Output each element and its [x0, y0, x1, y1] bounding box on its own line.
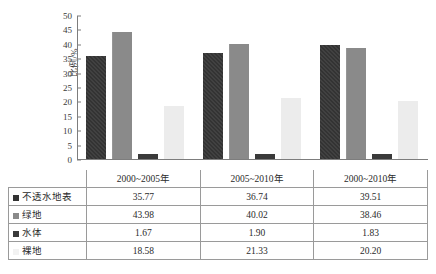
table-column-header: 2000~2010年: [314, 170, 428, 188]
table-cell-value: 1.83: [314, 224, 428, 242]
legend-label: 不透水地表: [22, 192, 72, 202]
table-row: 裸地18.5821.3320.20: [9, 242, 428, 260]
legend-label: 水体: [22, 228, 42, 238]
bar-water: [138, 154, 158, 159]
bar-impervious: [320, 45, 340, 159]
table-row: 不透水地表35.7736.7439.51: [9, 188, 428, 206]
y-tick-label: 5: [52, 141, 72, 150]
y-tick-label: 40: [52, 40, 72, 49]
table-cell-value: 38.46: [314, 206, 428, 224]
table-cell-value: 40.02: [200, 206, 314, 224]
table-cell-value: 36.74: [200, 188, 314, 206]
y-tick-label: 45: [52, 26, 72, 35]
table-row: 绿地43.9840.0238.46: [9, 206, 428, 224]
bar-bare: [281, 98, 301, 159]
legend-swatch-icon: [13, 231, 19, 237]
legend-label: 裸地: [22, 246, 42, 256]
table-header-row: 2000~2005年2005~2010年2000~2010年: [9, 170, 428, 188]
bar-chart: 比例/% 05101520253035404550: [0, 0, 436, 172]
bar-bare: [164, 106, 184, 160]
y-tick-label: 20: [52, 98, 72, 107]
table-cell-value: 1.90: [200, 224, 314, 242]
legend-swatch-icon: [13, 195, 19, 201]
bar-green: [112, 32, 132, 159]
table-cell-value: 39.51: [314, 188, 428, 206]
y-tick-label: 30: [52, 69, 72, 78]
table-row-label: 裸地: [9, 242, 87, 260]
table-cell-value: 35.77: [87, 188, 201, 206]
bar-green: [346, 48, 366, 159]
table-corner-cell: [9, 170, 87, 188]
bar-group: [78, 16, 195, 159]
y-tick-label: 25: [52, 84, 72, 93]
legend-swatch-icon: [13, 249, 19, 255]
table-row-label: 水体: [9, 224, 87, 242]
y-tick-label: 50: [52, 12, 72, 21]
table-row-label: 不透水地表: [9, 188, 87, 206]
table-row-label: 绿地: [9, 206, 87, 224]
bar-group: [195, 16, 312, 159]
bar-water: [255, 154, 275, 159]
table-row: 水体1.671.901.83: [9, 224, 428, 242]
bar-impervious: [203, 53, 223, 159]
table-column-header: 2005~2010年: [200, 170, 314, 188]
y-tick-label: 0: [52, 156, 72, 165]
bar-green: [229, 44, 249, 159]
legend-swatch-icon: [13, 213, 19, 219]
data-table: 2000~2005年2005~2010年2000~2010年不透水地表35.77…: [8, 170, 428, 260]
y-tick-label: 10: [52, 127, 72, 136]
figure-root: 比例/% 05101520253035404550 2000~2005年2005…: [0, 0, 436, 274]
table-body: 2000~2005年2005~2010年2000~2010年不透水地表35.77…: [9, 170, 428, 260]
bar-bare: [398, 101, 418, 159]
table-cell-value: 43.98: [87, 206, 201, 224]
table-cell-value: 20.20: [314, 242, 428, 260]
bar-impervious: [86, 56, 106, 159]
bar-water: [372, 154, 392, 159]
table-cell-value: 21.33: [200, 242, 314, 260]
bar-group: [312, 16, 429, 159]
plot-bars-container: [78, 16, 428, 159]
y-tick-label: 15: [52, 112, 72, 121]
plot-area: [77, 16, 428, 160]
y-axis-tick-labels: 05101520253035404550: [52, 16, 72, 160]
y-tick-label: 35: [52, 55, 72, 64]
table-column-header: 2000~2005年: [87, 170, 201, 188]
legend-label: 绿地: [22, 210, 42, 220]
table-cell-value: 18.58: [87, 242, 201, 260]
table-cell-value: 1.67: [87, 224, 201, 242]
